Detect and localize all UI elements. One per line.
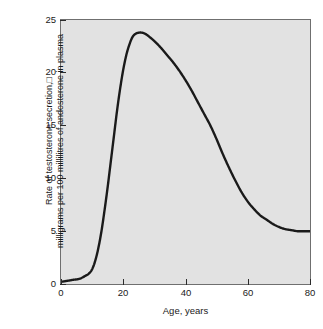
data-curve-line: [61, 33, 310, 282]
x-tick-label-60: 60: [228, 288, 268, 298]
x-tick-mark-0: [61, 279, 62, 285]
x-tick-mark-80: [310, 279, 311, 285]
x-tick-label-40: 40: [166, 288, 206, 298]
testosterone-secretion-chart: 0 5 10 15 20 25 0 20 40 60 80 Age, years…: [0, 0, 323, 329]
x-tick-label-20: 20: [103, 288, 143, 298]
y-axis-title-line-2: milligrams per 100 millilitres of andost…: [55, 8, 66, 274]
y-axis-title: Rate of testosterone secretion,□ milligr…: [44, 8, 66, 274]
x-tick-mark-60: [248, 279, 249, 285]
x-axis-title: Age, years: [60, 305, 311, 316]
y-axis-title-line-1: Rate of testosterone secretion,□: [44, 8, 55, 274]
x-tick-mark-20: [123, 279, 124, 285]
x-tick-label-0: 0: [41, 288, 81, 298]
x-tick-label-80: 80: [290, 288, 323, 298]
x-tick-mark-40: [186, 279, 187, 285]
curve-svg: [61, 20, 310, 284]
plot-area: [60, 19, 311, 285]
